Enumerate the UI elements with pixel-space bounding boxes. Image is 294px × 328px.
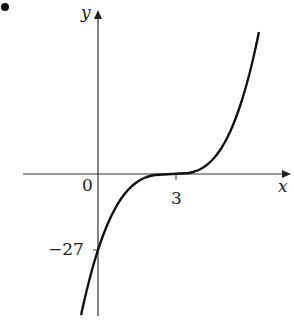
origin-label: 0	[82, 177, 93, 194]
bullet-marker	[1, 3, 9, 11]
y-axis-arrow-icon	[94, 10, 102, 19]
x-axis-label: x	[278, 178, 288, 195]
graph-canvas	[0, 0, 294, 328]
x-intercept-label: 3	[171, 190, 182, 207]
y-intercept-label: −27	[48, 241, 84, 258]
y-axis-label: y	[81, 4, 91, 21]
